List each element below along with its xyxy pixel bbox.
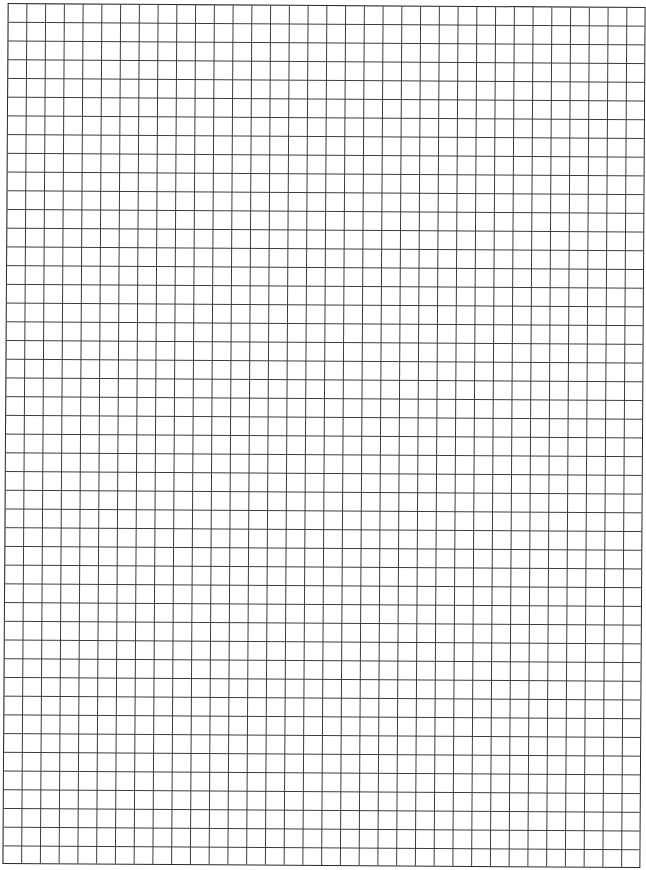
graph-paper-sheet <box>0 0 646 870</box>
square-grid <box>2 3 645 868</box>
